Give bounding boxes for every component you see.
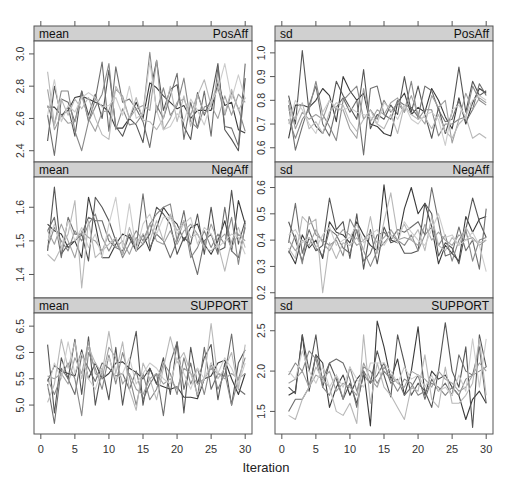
x-tick-label: 15 [137, 443, 149, 455]
y-tick-label: 1.5 [14, 233, 26, 248]
y-tick-label: 1.6 [14, 200, 26, 215]
x-tick-label: 10 [103, 443, 115, 455]
y-tick-label: 0.4 [255, 233, 267, 248]
y-tick-label: 2.5 [255, 323, 267, 338]
strip-variable-label: SUPPORT [431, 299, 489, 313]
x-tick-label: 15 [378, 443, 390, 455]
strip-stat-label: mean [39, 27, 69, 41]
y-tick-label: 0.6 [255, 180, 267, 195]
x-tick-label: 5 [72, 443, 78, 455]
x-tick-label: 30 [480, 443, 492, 455]
x-tick-label: 20 [171, 443, 183, 455]
x-tick-label: 30 [239, 443, 251, 455]
strip-stat-label: sd [280, 299, 293, 313]
y-tick-label: 0.2 [255, 285, 267, 300]
y-tick-label: 3.0 [14, 46, 26, 61]
trace-plot-chart: meanPosAff2.42.62.83.0sdPosAff0.60.70.80… [0, 0, 505, 485]
x-tick-label: 5 [313, 443, 319, 455]
strip-stat-label: sd [280, 163, 293, 177]
strip-stat-label: mean [39, 299, 69, 313]
y-tick-label: 0.3 [255, 259, 267, 274]
panel-sd-negaff: sdNegAff0.20.30.40.50.6 [255, 162, 493, 300]
x-tick-label: 0 [279, 443, 285, 455]
y-tick-label: 2.6 [14, 111, 26, 126]
panel-sd-support: sdSUPPORT1.52.02.5051015202530 [255, 298, 493, 455]
x-tick-label: 0 [38, 443, 44, 455]
strip-stat-label: sd [280, 27, 293, 41]
x-tick-label: 25 [205, 443, 217, 455]
strip-variable-label: NegAff [453, 163, 490, 177]
strip-stat-label: mean [39, 163, 69, 177]
y-tick-label: 2.0 [255, 364, 267, 379]
y-tick-label: 0.5 [255, 206, 267, 221]
panel-mean-support: meanSUPPORT5.05.56.06.5051015202530 [14, 298, 252, 455]
strip-variable-label: PosAff [213, 27, 249, 41]
y-tick-label: 1.5 [255, 404, 267, 419]
y-tick-label: 2.8 [14, 79, 26, 94]
panel-mean-negaff: meanNegAff1.41.51.6 [14, 162, 252, 298]
y-tick-label: 5.5 [14, 371, 26, 386]
y-tick-label: 6.5 [14, 319, 26, 334]
y-tick-label: 1.0 [255, 45, 267, 60]
strip-variable-label: PosAff [454, 27, 490, 41]
x-tick-label: 10 [344, 443, 356, 455]
y-tick-label: 0.8 [255, 93, 267, 108]
strip-variable-label: SUPPORT [190, 299, 248, 313]
y-tick-label: 6.0 [14, 345, 26, 360]
panel-mean-posaff: meanPosAff2.42.62.83.0 [14, 21, 252, 162]
y-tick-label: 1.4 [14, 267, 26, 282]
x-axis-label: Iteration [243, 460, 290, 475]
x-tick-label: 20 [412, 443, 424, 455]
y-tick-label: 0.9 [255, 69, 267, 84]
strip-variable-label: NegAff [212, 163, 249, 177]
y-tick-label: 0.7 [255, 117, 267, 132]
y-tick-label: 2.4 [14, 143, 26, 158]
y-tick-label: 0.6 [255, 140, 267, 155]
panel-sd-posaff: sdPosAff0.60.70.80.91.0 [255, 21, 493, 162]
x-tick-label: 25 [446, 443, 458, 455]
y-tick-label: 5.0 [14, 398, 26, 413]
